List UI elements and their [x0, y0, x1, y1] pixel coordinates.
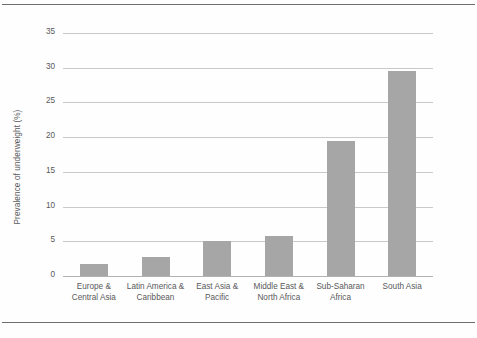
- bar-chart: Prevalence of underweight (%) 0510152025…: [0, 0, 477, 338]
- x-category-label-line1: Europe &: [77, 282, 111, 291]
- y-tick-label-0: 0: [29, 270, 55, 279]
- x-category-label-line1: Sub-Saharan: [316, 282, 364, 291]
- x-category-label-line1: Latin America &: [127, 282, 184, 291]
- y-axis-title: Prevalence of underweight (%): [13, 92, 27, 242]
- figure-page: Prevalence of underweight (%) 0510152025…: [0, 0, 477, 338]
- bar[interactable]: [142, 257, 170, 276]
- y-tick-label-15: 15: [29, 166, 55, 175]
- bar[interactable]: [388, 71, 416, 277]
- y-tick-label-5: 5: [29, 235, 55, 244]
- y-tick-label-30: 30: [29, 62, 55, 71]
- gridline-0: [63, 276, 433, 277]
- x-category-label-line2: Africa: [304, 292, 378, 303]
- y-tick-label-10: 10: [29, 201, 55, 210]
- bar[interactable]: [80, 264, 108, 276]
- x-category-label-line1: Middle East &: [254, 282, 305, 291]
- bar-series: [63, 33, 433, 276]
- x-axis-category-labels: Europe &Central AsiaLatin America &Carib…: [63, 281, 433, 311]
- x-category-label-line1: South Asia: [383, 282, 422, 291]
- x-category-label-line1: East Asia &: [196, 282, 238, 291]
- y-tick-label-35: 35: [29, 27, 55, 36]
- bar[interactable]: [327, 141, 355, 276]
- bar[interactable]: [265, 236, 293, 276]
- y-tick-label-25: 25: [29, 96, 55, 105]
- y-tick-label-20: 20: [29, 131, 55, 140]
- x-category-label: South Asia: [365, 281, 439, 292]
- bar[interactable]: [203, 241, 231, 276]
